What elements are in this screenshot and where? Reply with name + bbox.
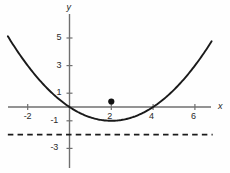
y-tick-label: 1 xyxy=(57,88,62,97)
x-tick-label: 2 xyxy=(107,112,112,121)
y-tick-label: -3 xyxy=(51,143,59,152)
y-tick-label: 3 xyxy=(57,61,62,70)
x-axis-label: x xyxy=(218,102,223,111)
plot-canvas xyxy=(0,0,230,173)
x-tick-label: -2 xyxy=(24,112,32,121)
x-tick-label: 4 xyxy=(149,112,154,121)
y-axis-label: y xyxy=(67,3,72,12)
parabola-curve xyxy=(8,36,212,121)
y-tick-label: -1 xyxy=(51,116,59,125)
marked-point-dot xyxy=(108,98,114,104)
graph-figure: -2246531-1-3 x y xyxy=(0,0,230,173)
x-tick-label: 6 xyxy=(191,112,196,121)
axes-group xyxy=(8,14,211,168)
y-tick-label: 5 xyxy=(57,33,62,42)
